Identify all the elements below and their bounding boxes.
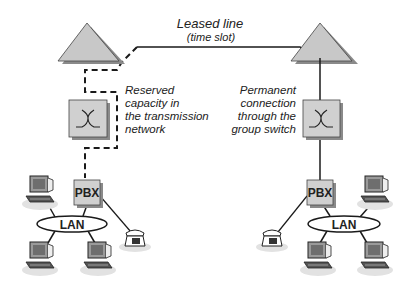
telephone-icon (119, 230, 151, 252)
telephone-icon (256, 230, 288, 252)
svg-text:capacity in: capacity in (125, 97, 179, 109)
right-pbx: PBX (307, 180, 336, 208)
left-group-switch (69, 100, 110, 140)
lan-label: LAN (332, 218, 357, 232)
pbx-label: PBX (308, 186, 333, 200)
left-pbx: PBX (74, 180, 103, 208)
right-note: Permanent connection through the group s… (231, 84, 296, 135)
svg-text:Permanent: Permanent (240, 84, 297, 96)
svg-text:group switch: group switch (231, 123, 296, 135)
leased-line-title: Leased line (177, 16, 244, 31)
computer-icon (22, 176, 58, 210)
right-lan: LAN (308, 216, 380, 232)
computer-icon (22, 242, 58, 276)
svg-text:the transmission: the transmission (125, 110, 209, 122)
computer-icon (300, 242, 336, 276)
left-note: Reserved capacity in the transmission ne… (125, 84, 209, 135)
svg-text:network: network (125, 123, 167, 135)
computer-icon (80, 242, 116, 276)
right-group-switch (303, 100, 343, 140)
svg-text:connection: connection (240, 97, 296, 109)
lan-label: LAN (60, 218, 85, 232)
leased-line-subtitle: (time slot) (187, 31, 236, 43)
svg-text:Reserved: Reserved (125, 84, 175, 96)
svg-text:through the: through the (238, 110, 296, 122)
left-transmission-node (58, 23, 125, 64)
left-lan: LAN (37, 216, 107, 232)
pbx-label: PBX (75, 186, 100, 200)
computer-icon (357, 242, 393, 276)
leased-line-diagram: PBX LAN PBX LAN Leased line (time slot) … (0, 0, 415, 289)
right-transmission-node (291, 23, 358, 64)
computer-icon (357, 176, 393, 210)
